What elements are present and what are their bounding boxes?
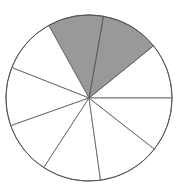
pie-chart-figure [0,0,179,191]
pie-slices-group [6,15,172,181]
pie-chart-svg [0,0,179,191]
